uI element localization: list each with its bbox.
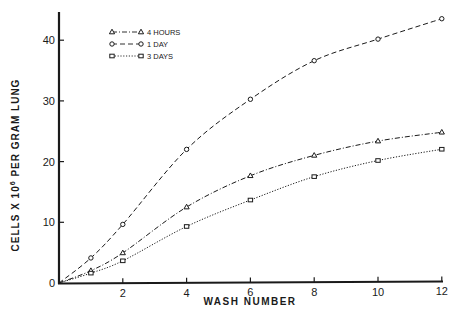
legend-item: 1 DAY <box>110 40 168 49</box>
circle-marker <box>89 256 93 260</box>
legend-item: 3 DAYS <box>110 52 173 61</box>
circle-marker <box>121 222 125 226</box>
triangle-marker <box>120 250 125 255</box>
circle-marker <box>139 42 143 46</box>
circle-marker <box>110 42 114 46</box>
square-marker <box>121 259 125 263</box>
series-line <box>59 132 442 283</box>
square-marker <box>440 147 444 151</box>
legend-item: 4 HOURS <box>109 28 180 37</box>
y-ticks: 010203040 <box>43 34 64 289</box>
x-tick-label: 10 <box>372 286 384 298</box>
square-marker <box>248 198 252 202</box>
circle-marker <box>440 17 444 21</box>
y-tick-label: 10 <box>43 216 55 228</box>
circle-marker <box>312 58 316 62</box>
triangle-marker <box>138 29 143 34</box>
series-4-hours <box>59 129 444 283</box>
series-line <box>59 19 442 283</box>
square-marker <box>376 159 380 163</box>
triangle-marker <box>312 153 317 158</box>
plot-series <box>59 17 444 283</box>
triangle-marker <box>439 129 444 134</box>
x-tick-label: 12 <box>436 285 448 297</box>
circle-marker <box>184 147 188 151</box>
square-marker <box>89 271 93 275</box>
y-axis-title-prefix: CELLS X 10 <box>10 185 21 251</box>
triangle-marker <box>184 204 189 209</box>
triangle-marker <box>375 138 380 143</box>
y-tick-label: 30 <box>43 95 55 107</box>
legend: 4 HOURS1 DAY3 DAYS <box>109 28 180 61</box>
series-1-day <box>59 17 444 283</box>
square-marker <box>184 225 188 229</box>
x-tick-label: 4 <box>184 287 190 299</box>
legend-label: 3 DAYS <box>147 52 173 61</box>
x-axis-title: WASH NUMBER <box>203 296 296 307</box>
circle-marker <box>248 97 252 101</box>
x-tick-label: 2 <box>120 287 126 299</box>
x-tick-label: 8 <box>311 286 317 298</box>
line-chart: 010203040 24681012 WASH NUMBER CELLS X 1… <box>0 0 456 319</box>
series-line <box>59 149 442 283</box>
y-tick-label: 20 <box>43 156 55 168</box>
y-tick-label: 40 <box>43 34 55 46</box>
circle-marker <box>376 37 380 41</box>
triangle-marker <box>109 29 114 34</box>
y-axis-title: CELLS X 106 PER GRAM LUNG <box>9 79 21 252</box>
square-marker <box>312 175 316 179</box>
y-tick-label: 0 <box>49 277 55 289</box>
y-axis-title-suffix: PER GRAM LUNG <box>10 79 21 181</box>
square-marker <box>139 54 143 58</box>
series-3-days <box>59 147 444 283</box>
legend-label: 1 DAY <box>147 40 168 49</box>
legend-label: 4 HOURS <box>147 28 180 37</box>
square-marker <box>110 54 114 58</box>
triangle-marker <box>248 173 253 178</box>
